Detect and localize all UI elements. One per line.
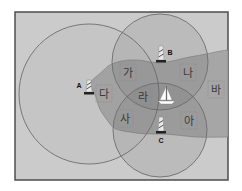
region-label-a: 아 — [184, 115, 194, 128]
region-label-ba: 바 — [211, 84, 221, 97]
lighthouse-b-label: B — [167, 49, 172, 56]
region-label-na: 나 — [183, 67, 193, 80]
region-label-ra: 라 — [138, 91, 148, 104]
region-label-ga: 가 — [123, 67, 133, 80]
lighthouse-range-diagram: 가 나 다 라 바 사 아 — [0, 0, 242, 191]
region-label-sa: 사 — [120, 113, 130, 126]
lighthouse-c-label: C — [158, 137, 163, 144]
region-label-da: 다 — [99, 88, 109, 101]
lighthouse-a-label: A — [76, 82, 81, 89]
